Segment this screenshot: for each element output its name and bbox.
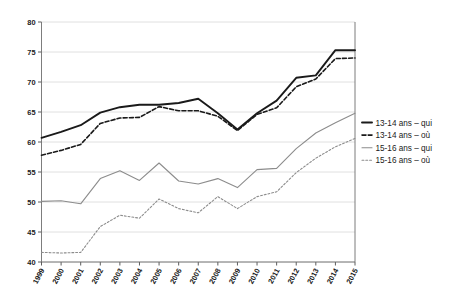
y-tick-label: 80 bbox=[27, 18, 35, 27]
legend-label-0: 13-14 ans – qui bbox=[376, 119, 433, 128]
y-axis-ticks: 404550556065707580 bbox=[27, 18, 41, 267]
x-tick-label: 2005 bbox=[148, 267, 164, 286]
x-tick-label: 2014 bbox=[325, 266, 341, 286]
x-tick-label: 2003 bbox=[109, 267, 125, 286]
x-tick-label: 2012 bbox=[286, 267, 302, 286]
series-line-1 bbox=[42, 58, 356, 155]
x-tick-label: 1999 bbox=[31, 267, 47, 286]
x-tick-label: 2001 bbox=[70, 267, 86, 286]
y-tick-label: 55 bbox=[27, 168, 35, 177]
legend-label-1: 13-14 ans – où bbox=[376, 131, 431, 140]
x-tick-label: 2011 bbox=[266, 267, 281, 285]
series-line-2 bbox=[42, 113, 356, 204]
y-tick-label: 70 bbox=[27, 78, 35, 87]
x-tick-label: 2004 bbox=[129, 266, 145, 286]
x-axis-ticks: 1999200020012002200320042005200620072008… bbox=[31, 262, 360, 285]
series-line-3 bbox=[42, 138, 356, 253]
x-tick-label: 2000 bbox=[50, 267, 66, 286]
chart-legend: 13-14 ans – qui13-14 ans – où15-16 ans –… bbox=[362, 119, 432, 166]
y-tick-label: 65 bbox=[27, 108, 35, 117]
line-chart: 404550556065707580 199920002001200220032… bbox=[0, 0, 451, 305]
y-tick-label: 60 bbox=[27, 138, 35, 147]
x-tick-label: 2006 bbox=[168, 267, 184, 286]
data-series bbox=[42, 50, 356, 253]
series-line-0 bbox=[42, 50, 356, 138]
x-tick-label: 2008 bbox=[207, 267, 223, 286]
gridlines bbox=[42, 22, 356, 262]
y-tick-label: 50 bbox=[27, 198, 35, 207]
x-tick-label: 2013 bbox=[305, 267, 321, 286]
legend-label-3: 15-16 ans – où bbox=[376, 156, 431, 165]
x-tick-label: 2009 bbox=[227, 267, 243, 286]
x-tick-label: 2007 bbox=[188, 267, 204, 286]
y-tick-label: 75 bbox=[27, 48, 35, 57]
x-tick-label: 2010 bbox=[246, 267, 262, 286]
legend-label-2: 15-16 ans – qui bbox=[376, 144, 433, 153]
chart-container: 404550556065707580 199920002001200220032… bbox=[0, 0, 451, 305]
x-tick-label: 2015 bbox=[344, 267, 360, 286]
y-tick-label: 45 bbox=[27, 228, 35, 237]
x-tick-label: 2002 bbox=[90, 267, 106, 286]
y-tick-label: 40 bbox=[27, 258, 35, 267]
